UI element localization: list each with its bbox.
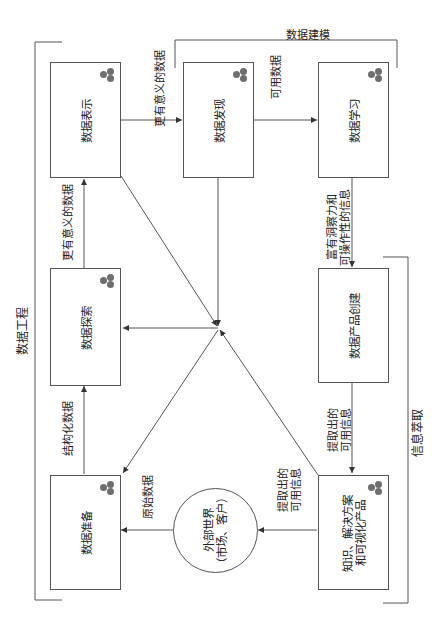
edge-label-insight: 富有洞察力和 可操作性的信息 bbox=[326, 172, 352, 282]
edge-label-usable-data: 可用数据 bbox=[270, 37, 283, 117]
box-knowledge-products: 知识、解决方案 和可视化产品 bbox=[318, 475, 389, 590]
edge-label-extracted-info-bottom: 提取出的 可用信息 bbox=[327, 390, 353, 470]
dots-icon bbox=[368, 481, 384, 495]
edge-label-line1: 提取出的 bbox=[277, 450, 290, 530]
edge-label-line2: 可用信息 bbox=[290, 450, 303, 530]
external-world-circle: 外部世界 （市场、客户） bbox=[173, 488, 258, 573]
box-label: 数据准备 bbox=[81, 483, 94, 583]
group-label-data-engineering: 数据工程 bbox=[17, 296, 30, 366]
edge-label-raw-data: 原始数据 bbox=[142, 457, 155, 537]
box-label: 数据产品创建 bbox=[349, 266, 362, 386]
edge-label-structured-data: 结构化数据 bbox=[62, 379, 75, 479]
box-data-representation: 数据表示 bbox=[50, 62, 121, 178]
edge-label-more-meaningful-data: 更有意义的数据 bbox=[154, 39, 167, 139]
group-label-data-modeling: 数据建模 bbox=[268, 26, 348, 42]
edge-label-insight-line1: 富有洞察力和 bbox=[326, 172, 339, 282]
dots-icon bbox=[100, 274, 116, 288]
edge-label-extracted-info-right: 提取出的 可用信息 bbox=[277, 450, 303, 530]
group-label-information-extraction: 信息萃取 bbox=[412, 398, 425, 468]
box-data-preparation: 数据准备 bbox=[50, 475, 121, 590]
edge-label-more-meaningful-data-left: 更有意义的数据 bbox=[62, 173, 75, 273]
external-world-label: 外部世界 （市场、客户） bbox=[203, 470, 229, 590]
box-data-exploration: 数据探索 bbox=[50, 268, 121, 386]
data-science-process-diagram: 数据表示 数据发现 数据学习 数据探索 数据产品创建 数据准备 知识、解决方案 … bbox=[0, 0, 437, 626]
edge-label-line1: 提取出的 bbox=[327, 390, 340, 470]
box-label: 数据发现 bbox=[214, 71, 227, 171]
external-line2: （市场、客户） bbox=[216, 470, 229, 590]
box-label-line2: 和可视化产品 bbox=[355, 473, 368, 593]
box-label: 数据学习 bbox=[349, 71, 362, 171]
box-label: 数据表示 bbox=[81, 71, 94, 171]
box-label: 知识、解决方案 和可视化产品 bbox=[342, 473, 368, 593]
dots-icon bbox=[100, 481, 116, 495]
dots-icon bbox=[233, 68, 249, 82]
edge-label-insight-line2: 可操作性的信息 bbox=[339, 172, 352, 282]
box-data-product-creation: 数据产品创建 bbox=[318, 268, 389, 383]
edge-label-line2: 可用信息 bbox=[340, 390, 353, 470]
dots-icon bbox=[100, 68, 116, 82]
dots-icon bbox=[368, 68, 384, 82]
box-data-learning: 数据学习 bbox=[318, 62, 389, 178]
box-label: 数据探索 bbox=[81, 278, 94, 378]
box-data-discovery: 数据发现 bbox=[183, 62, 254, 178]
